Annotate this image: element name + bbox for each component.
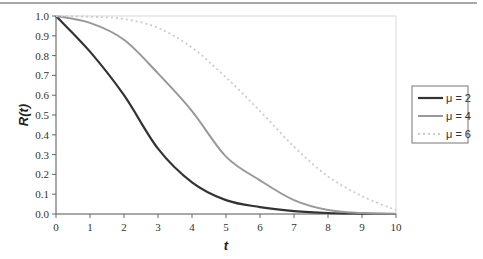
series-line-3 — [56, 16, 396, 210]
y-tick-label: 0.9 — [35, 30, 49, 42]
y-tick-label: 0.7 — [35, 69, 49, 81]
x-tick-label: 8 — [325, 221, 331, 233]
x-tick-label: 3 — [155, 221, 161, 233]
series-line-2 — [56, 16, 396, 214]
y-tick-label: 0.5 — [35, 109, 49, 121]
y-tick-label: 0.1 — [35, 188, 49, 200]
y-tick-label: 0.3 — [35, 149, 49, 161]
x-tick-label: 6 — [257, 221, 263, 233]
y-axis-title: R(t) — [16, 104, 31, 126]
x-tick-label: 5 — [223, 221, 229, 233]
x-tick-label: 1 — [87, 221, 93, 233]
x-axis: 012345678910 — [53, 214, 402, 233]
reliability-chart: 0.00.10.20.30.40.50.60.70.80.91.0 012345… — [0, 0, 483, 259]
x-tick-label: 7 — [291, 221, 297, 233]
y-tick-label: 0.0 — [35, 208, 49, 220]
series-lines — [56, 16, 396, 214]
x-axis-title: t — [224, 238, 229, 253]
y-tick-label: 0.2 — [35, 168, 49, 180]
y-tick-label: 0.6 — [35, 89, 49, 101]
y-tick-label: 1.0 — [35, 10, 49, 22]
x-tick-label: 2 — [121, 221, 127, 233]
legend-label: μ = 4 — [446, 110, 471, 122]
legend-label: μ = 2 — [446, 92, 471, 104]
x-tick-label: 9 — [359, 221, 365, 233]
y-tick-label: 0.4 — [35, 129, 49, 141]
x-tick-label: 10 — [391, 221, 403, 233]
series-line-1 — [56, 16, 396, 214]
plot-area — [56, 16, 396, 214]
x-tick-label: 0 — [53, 221, 59, 233]
y-tick-label: 0.8 — [35, 50, 49, 62]
y-axis: 0.00.10.20.30.40.50.60.70.80.91.0 — [35, 10, 56, 220]
y-axis-title-var: t — [16, 107, 31, 112]
legend: μ = 2μ = 4μ = 6 — [412, 86, 471, 143]
legend-label: μ = 6 — [446, 128, 471, 140]
x-tick-label: 4 — [189, 221, 195, 233]
